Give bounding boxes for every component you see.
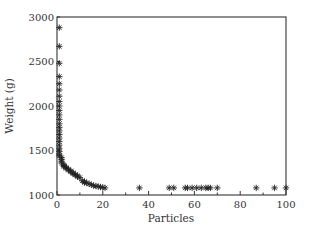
asterisk-marker-icon — [56, 81, 62, 87]
asterisk-marker-icon — [283, 185, 289, 191]
x-tick-label: 0 — [54, 199, 60, 210]
y-tick-label: 2000 — [29, 101, 54, 112]
asterisk-marker-icon — [253, 185, 259, 191]
plot-border — [57, 17, 286, 195]
asterisk-marker-icon — [56, 73, 62, 79]
x-axis-label: Particles — [148, 212, 194, 224]
plot-frame — [57, 17, 286, 195]
asterisk-marker-icon — [102, 185, 108, 191]
axis-tick-labels: 02040608010010001500200025003000 — [29, 12, 296, 211]
asterisk-marker-icon — [207, 185, 213, 191]
x-tick-label: 40 — [142, 199, 155, 210]
asterisk-marker-icon — [271, 185, 277, 191]
asterisk-marker-icon — [214, 185, 220, 191]
asterisk-marker-icon — [171, 185, 177, 191]
asterisk-marker-icon — [136, 185, 142, 191]
x-tick-label: 80 — [234, 199, 247, 210]
axis-ticks — [57, 17, 286, 195]
x-tick-label: 100 — [276, 199, 295, 210]
y-tick-label: 1500 — [29, 145, 54, 156]
x-tick-label: 60 — [188, 199, 201, 210]
y-tick-label: 3000 — [29, 12, 54, 23]
x-tick-label: 20 — [96, 199, 109, 210]
y-axis-label: Weight (g) — [3, 78, 15, 133]
y-tick-label: 2500 — [29, 56, 54, 67]
y-tick-label: 1000 — [29, 190, 54, 201]
scatter-chart: 02040608010010001500200025003000 Particl… — [0, 0, 309, 234]
data-points — [56, 24, 289, 191]
asterisk-marker-icon — [56, 87, 62, 93]
